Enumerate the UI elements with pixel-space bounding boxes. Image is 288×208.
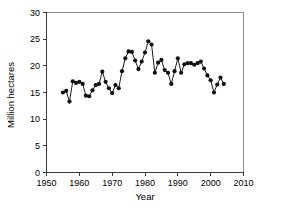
data-point	[172, 69, 176, 73]
data-point	[149, 42, 153, 46]
data-point	[143, 50, 147, 54]
data-point	[169, 82, 173, 86]
data-point	[104, 80, 108, 84]
data-point	[64, 89, 68, 93]
data-point	[113, 83, 117, 87]
data-point	[120, 69, 124, 73]
y-axis-ticks: 0 5 10 15 20 25 30	[30, 8, 47, 178]
x-tick-label-1950: 1950	[36, 178, 56, 188]
data-point	[146, 39, 150, 43]
data-point	[81, 82, 85, 86]
y-tick-label-25: 25	[30, 34, 40, 44]
data-point	[212, 90, 216, 94]
y-tick-label-20: 20	[30, 61, 40, 71]
data-point	[166, 71, 170, 75]
data-point	[133, 58, 137, 62]
x-axis-title: Year	[135, 191, 154, 202]
y-tick-label-15: 15	[30, 88, 40, 98]
line-chart: 0 5 10 15 20 25 30 1950 1960 1970 1980	[0, 0, 288, 208]
data-point	[117, 86, 121, 90]
data-point	[222, 82, 226, 86]
data-point	[97, 82, 101, 86]
data-point	[159, 58, 163, 62]
series-line-0	[63, 41, 224, 101]
data-point	[176, 56, 180, 60]
data-point	[123, 56, 127, 60]
x-tick-label-1990: 1990	[168, 178, 188, 188]
y-tick-label-0: 0	[35, 168, 40, 178]
y-axis-title: Million hectares	[5, 62, 16, 128]
x-tick-label-1980: 1980	[135, 178, 155, 188]
data-point	[90, 88, 94, 92]
y-tick-label-5: 5	[35, 141, 40, 151]
data-point	[199, 59, 203, 63]
x-tick-label-1960: 1960	[69, 178, 89, 188]
data-point	[202, 66, 206, 70]
x-tick-label-2000: 2000	[201, 178, 221, 188]
data-point	[156, 61, 160, 65]
data-point	[130, 50, 134, 54]
y-tick-label-30: 30	[30, 8, 40, 18]
x-tick-label-2010: 2010	[233, 178, 253, 188]
data-point	[67, 99, 71, 103]
data-point	[179, 71, 183, 75]
data-point	[153, 71, 157, 75]
data-series-group	[61, 39, 226, 103]
data-point	[136, 67, 140, 71]
data-point	[218, 75, 222, 79]
data-point	[205, 73, 209, 77]
y-tick-label-10: 10	[30, 114, 40, 124]
data-point	[100, 70, 104, 74]
data-point	[163, 68, 167, 72]
data-point	[215, 82, 219, 86]
chart-figure: 0 5 10 15 20 25 30 1950 1960 1970 1980	[0, 0, 288, 208]
data-point	[107, 86, 111, 90]
data-point	[209, 78, 213, 82]
data-point	[140, 59, 144, 63]
data-point	[110, 91, 114, 95]
x-tick-label-1970: 1970	[102, 178, 122, 188]
x-axis-ticks: 1950 1960 1970 1980 1990 2000 2010	[36, 173, 253, 189]
data-point	[87, 94, 91, 98]
